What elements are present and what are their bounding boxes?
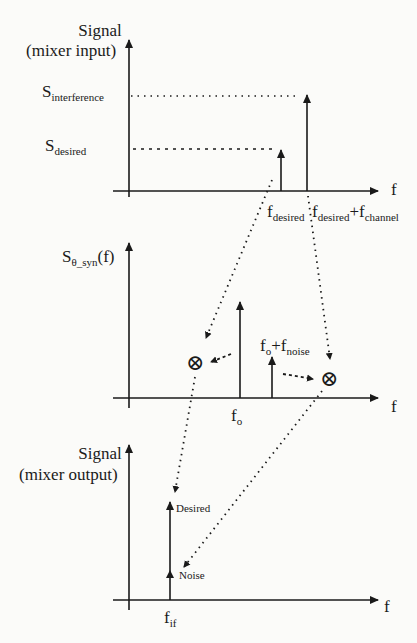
input-y-label-line1: Signal	[50, 22, 150, 39]
flow-mixer2-to-noise	[184, 391, 322, 567]
lo-x-label: f	[391, 398, 397, 415]
f-interferer-tick-label: fdesired+fchannel	[312, 203, 399, 223]
flow-desired-to-mixer1	[206, 180, 272, 338]
input-y-label-line2: (mixer input)	[26, 42, 116, 59]
output-x-label: f	[384, 598, 390, 615]
output-y-label-line1: Signal	[50, 445, 150, 462]
interference-level-label: Sinterference	[42, 83, 104, 103]
flow-noise-to-mixer2	[283, 374, 313, 379]
output-fif-label: fif	[164, 609, 176, 629]
lo-fo-label: fo	[231, 407, 242, 427]
mixer-icon: ⊗	[186, 352, 204, 374]
input-x-label: f	[391, 181, 397, 198]
lo-noise-label: fo+fnoise	[260, 337, 310, 357]
flow-lo-to-mixer1	[211, 354, 231, 362]
lo-y-label: Sθ_syn(f)	[62, 248, 115, 268]
mixer-diagram: Signal (mixer input) Sinterference Sdesi…	[0, 0, 417, 643]
output-y-label-line2: (mixer output)	[19, 466, 118, 483]
f-desired-tick-label: fdesired	[267, 203, 304, 223]
output-noise-annotation: Noise	[179, 570, 205, 581]
output-noise-arrowhead	[166, 570, 174, 578]
desired-level-label: Sdesired	[45, 137, 86, 157]
mixer-icon: ⊗	[320, 368, 338, 390]
output-desired-annotation: Desired	[176, 503, 210, 514]
flow-mixer1-to-desired	[175, 377, 195, 492]
